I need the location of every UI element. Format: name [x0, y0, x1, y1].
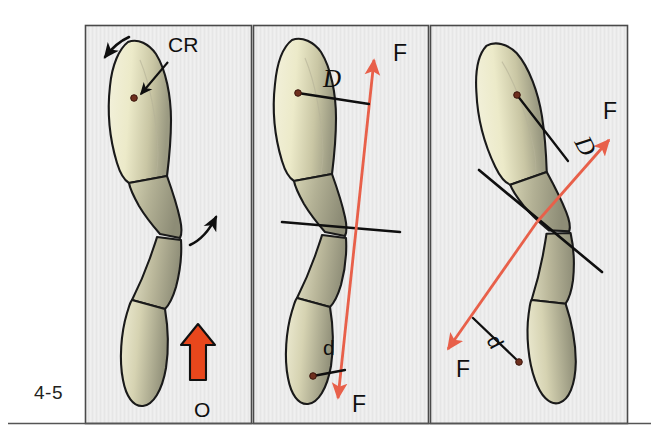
center-of-resistance-dot-lower — [310, 373, 317, 380]
label-force-lower: F — [456, 356, 470, 382]
center-of-resistance-dot-upper — [514, 92, 521, 99]
label-occlusal-force: O — [194, 398, 210, 421]
label-force-upper: F — [393, 40, 407, 66]
center-of-resistance-dot-upper — [295, 90, 302, 97]
label-moment-arm-D-upper: D — [322, 65, 341, 92]
label-moment-arm-d-lower: d — [323, 336, 335, 359]
label-cr: CR — [168, 33, 198, 56]
label-force-upper: F — [603, 98, 617, 124]
figure-number: 4-5 — [34, 382, 63, 404]
label-force-lower: F — [352, 391, 366, 417]
figure-4-5: CR O D F d F D F d F 4-5 — [0, 0, 651, 444]
figure-illustration: CR O D F d F D F d F — [0, 0, 651, 444]
center-of-resistance-dot-lower — [516, 359, 523, 366]
center-of-resistance-dot — [131, 95, 138, 102]
